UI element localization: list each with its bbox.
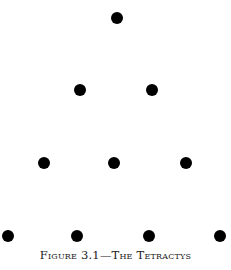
figure-caption: Figure 3.1—The Tetractys <box>0 248 231 262</box>
dot-row2-1 <box>74 84 86 96</box>
dot-row2-2 <box>146 84 158 96</box>
dot-row4-1 <box>2 230 14 242</box>
dot-row1-1 <box>111 12 123 24</box>
dot-row4-4 <box>214 230 226 242</box>
dot-row4-2 <box>71 230 83 242</box>
dot-row3-3 <box>180 157 192 169</box>
dot-row3-2 <box>108 157 120 169</box>
dot-row3-1 <box>38 157 50 169</box>
dot-row4-3 <box>143 230 155 242</box>
